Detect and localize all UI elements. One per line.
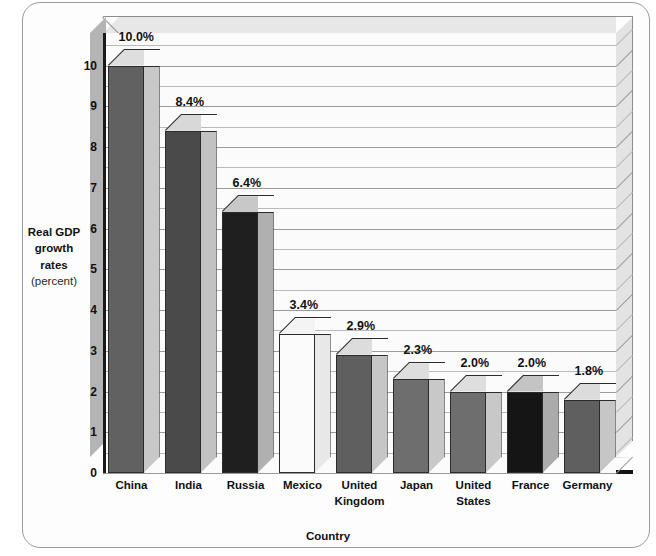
plot-wall-top [103,17,616,33]
data-label: 2.0% [461,356,490,370]
data-label: 2.9% [347,319,376,333]
y-tick-label: 1 [69,426,97,438]
y-axis-line [103,33,106,473]
bar-top-face [564,384,600,400]
bar-top-face [507,376,543,392]
y-tick-label: 3 [69,345,97,357]
bar-mexico[interactable] [279,334,315,473]
bar-top-edge-back [466,375,502,376]
y-axis-title-line2: growth [6,240,102,256]
bar-front-face [279,334,315,473]
bar-india[interactable] [165,131,201,473]
data-label: 6.4% [233,176,262,190]
bar-front-face [222,212,258,473]
y-axis-title-line3: rates [6,257,102,273]
y-axis-title-line1: Real GDP [6,224,102,240]
plot-wall-right-edge [632,17,633,441]
y-axis-title: Real GDP growth rates (percent) [6,224,102,289]
bar-germany[interactable] [564,400,600,473]
bar-top-edge-back [238,195,274,196]
bar-front-face [507,392,543,473]
plot-wall-right [616,17,633,457]
y-tick-label: 8 [69,141,97,153]
bar-side-face [600,400,616,473]
x-axis-categories: ChinaIndiaRussiaMexicoUnitedKingdomJapan… [0,478,656,528]
bar-side-face [486,392,502,473]
bar-front-face [165,131,201,473]
bar-france[interactable] [507,392,543,473]
data-label: 2.0% [518,356,547,370]
x-axis-title: Country [0,530,656,542]
bar-front-face [393,379,429,473]
bar-front-face [336,355,372,473]
data-label: 3.4% [290,298,319,312]
bar-united-states[interactable] [450,392,486,473]
bar-side-face [201,131,217,473]
bar-side-face [543,392,559,473]
bar-top-edge-back [409,362,445,363]
bar-top-edge-back [181,114,217,115]
bar-side-face [315,334,331,473]
x-category-label-line: States [437,494,510,510]
data-label: 2.3% [404,343,433,357]
bar-side-face [258,212,274,473]
bar-top-edge-back [295,317,331,318]
plot-wall-top-edge [103,16,633,17]
chart-root: 012345678910 Real GDP growth rates (perc… [0,0,656,556]
data-label: 10.0% [119,30,154,44]
y-axis-title-unit: (percent) [6,273,102,289]
bar-japan[interactable] [393,379,429,473]
bar-top-face [165,115,201,131]
bar-side-face [429,379,445,473]
data-label: 1.8% [575,364,604,378]
bar-side-face [372,355,388,473]
x-category-label: Germany [551,478,624,494]
bar-top-face [108,50,144,66]
bar-top-edge-back [124,49,160,50]
bar-top-edge-back [352,338,388,339]
bar-top-edge-back [580,383,616,384]
data-label: 8.4% [176,95,205,109]
bar-front-face [564,400,600,473]
x-category-label-line: Kingdom [323,494,396,510]
y-tick-label: 2 [69,386,97,398]
bar-side-face [144,66,160,473]
x-category-label-line: Germany [551,478,624,494]
bar-russia[interactable] [222,212,258,473]
bar-top-face [336,339,372,355]
bar-top-face [450,376,486,392]
bar-united-kingdom[interactable] [336,355,372,473]
y-tick-label: 9 [69,100,97,112]
bar-top-edge-back [523,375,559,376]
bar-china[interactable] [108,66,144,473]
y-tick-label: 7 [69,182,97,194]
bar-front-face [108,66,144,473]
y-tick-label: 4 [69,304,97,316]
y-tick-label: 10 [69,60,97,72]
bar-front-face [450,392,486,473]
